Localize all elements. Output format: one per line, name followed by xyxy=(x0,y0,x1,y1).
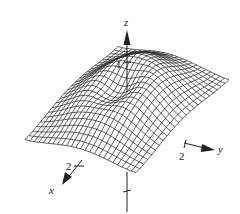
x-axis-label: x xyxy=(48,184,54,196)
mesh-line-x xyxy=(25,140,136,173)
mesh-line-y xyxy=(34,49,127,142)
surface-plot: z 1 2 x 2 y xyxy=(0,0,240,214)
z-axis-label: z xyxy=(123,16,129,28)
y-axis-arrowhead xyxy=(201,144,215,152)
y-tick-label: 2 xyxy=(179,150,185,162)
y-tick-2 xyxy=(184,140,186,148)
z-tick-label: 1 xyxy=(116,58,122,70)
z-axis-arrowhead xyxy=(124,30,131,45)
y-axis-label: y xyxy=(217,143,223,155)
x-tick-label: 2 xyxy=(66,160,72,172)
mesh-line-y xyxy=(127,76,220,169)
mesh-line-x xyxy=(95,52,206,99)
mesh-line-x xyxy=(33,131,144,164)
